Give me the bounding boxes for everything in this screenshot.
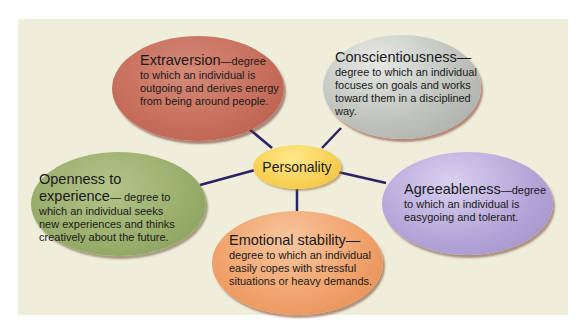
trait-desc-line: new experiences and thinks [39, 218, 204, 231]
trait-title: Emotional stability— [229, 232, 379, 249]
center-label: Personality [253, 145, 341, 189]
trait-desc-line: which an individual seeks [39, 205, 204, 218]
center-node-personality: Personality [253, 145, 341, 189]
trait-desc-line: focuses on goals and works [335, 79, 480, 92]
trait-desc-line: outgoing and derives energy [140, 82, 285, 95]
trait-emotional-stability: Emotional stability— degree to which an … [212, 211, 383, 315]
trait-desc-line: toward them in a disciplined [335, 92, 480, 105]
connector-openness [200, 170, 255, 185]
trait-desc-line: to which an individual is [140, 69, 285, 82]
trait-desc-line: way. [335, 105, 480, 118]
trait-desc-line: creatively about the future. [39, 231, 204, 244]
trait-title: Conscientiousness— [335, 49, 480, 66]
trait-openness: Openness to experience— degree to which … [31, 152, 206, 256]
trait-desc-line: to which an individual is [404, 198, 549, 211]
trait-desc-line: from being around people. [140, 95, 285, 108]
trait-extraversion: Extraversion—degree to which an individu… [112, 36, 284, 141]
trait-desc-line: degree to which an individual [335, 66, 480, 79]
trait-title: Openness to [39, 171, 204, 188]
trait-desc-line: situations or heavy demands. [229, 275, 379, 288]
trait-title-line2: experience— degree to [39, 188, 204, 205]
trait-conscientiousness: Conscientiousness— degree to which an in… [323, 35, 481, 139]
trait-desc-line: easygoing and tolerant. [404, 211, 549, 224]
trait-title: Agreeableness—degree [404, 181, 549, 198]
trait-agreeableness: Agreeableness—degree to which an individ… [382, 152, 553, 255]
trait-title: Extraversion—degree [140, 52, 285, 69]
trait-desc-line: degree to which an individual [229, 249, 379, 262]
trait-desc-line: easily copes with stressful [229, 262, 379, 275]
connector-agreeableness [338, 172, 386, 183]
